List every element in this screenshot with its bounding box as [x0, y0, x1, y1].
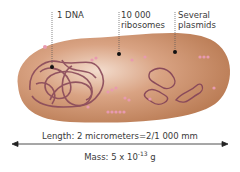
- mass-value: Mass: 5 x 10: [84, 152, 138, 162]
- cell-body: [18, 33, 230, 123]
- plasmids-label-line1: Several: [178, 10, 216, 20]
- dna-label: 1 DNA: [57, 10, 84, 20]
- ribosomes-label-line2: ribosomes: [121, 20, 165, 30]
- ribosomes-label-line1: 10 000: [121, 10, 165, 20]
- plasmids-label: Several plasmids: [178, 10, 216, 30]
- ribosomes-label: 10 000 ribosomes: [121, 10, 165, 30]
- plasmids-label-line2: plasmids: [178, 20, 216, 30]
- length-caption: Length: 2 micrometers=2/1 000 mm: [0, 131, 240, 141]
- length-arrow: [12, 142, 228, 147]
- mass-unit: g: [148, 152, 156, 162]
- mass-exponent: -13: [138, 150, 148, 157]
- mass-caption: Mass: 5 x 10-13 g: [0, 150, 240, 162]
